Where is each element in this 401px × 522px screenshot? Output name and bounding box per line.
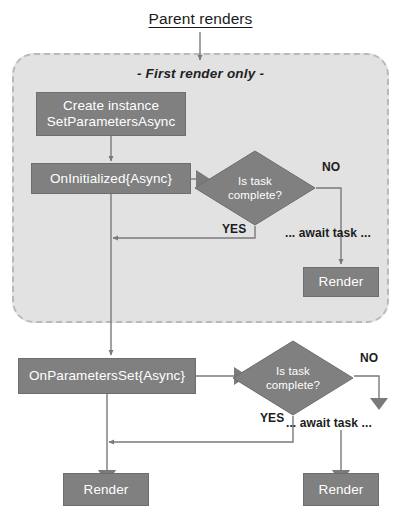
node-render-left[interactable]: Render: [63, 473, 149, 506]
node-render-first-render[interactable]: Render: [303, 267, 379, 297]
edge-label-no-first: NO: [322, 160, 340, 174]
decision-second-line2: complete?: [266, 378, 320, 392]
flowchart-canvas: Parent renders - First render only -: [0, 0, 401, 522]
node-on-parameters-set[interactable]: OnParametersSet{Async}: [18, 358, 196, 394]
decision-is-task-complete-first[interactable]: Is task complete?: [194, 150, 316, 226]
edge-label-yes-first: YES: [222, 222, 246, 236]
decision-second-text: Is task complete?: [232, 340, 354, 416]
edge-label-no-second: NO: [360, 351, 378, 365]
decision-first-line2: complete?: [228, 188, 282, 202]
edge-label-yes-second: YES: [260, 411, 284, 425]
wire-no2-seg1: [354, 376, 379, 398]
decision-first-text: Is task complete?: [194, 150, 316, 226]
node-render-right[interactable]: Render: [303, 473, 379, 506]
node-create-instance[interactable]: Create instance SetParametersAsync: [36, 92, 186, 136]
edge-label-await-task-second: ... await task ...: [286, 416, 372, 430]
page-title: Parent renders: [0, 10, 401, 28]
decision-first-line1: Is task: [238, 174, 272, 188]
decision-second-line1: Is task: [276, 364, 310, 378]
edge-label-await-task-first: ... await task ...: [285, 226, 371, 240]
decision-is-task-complete-second[interactable]: Is task complete?: [232, 340, 354, 416]
node-on-initialized[interactable]: OnInitialized{Async}: [31, 163, 191, 194]
wire-arrowhead-await2: [370, 398, 388, 410]
first-render-region-label: - First render only -: [12, 66, 389, 81]
